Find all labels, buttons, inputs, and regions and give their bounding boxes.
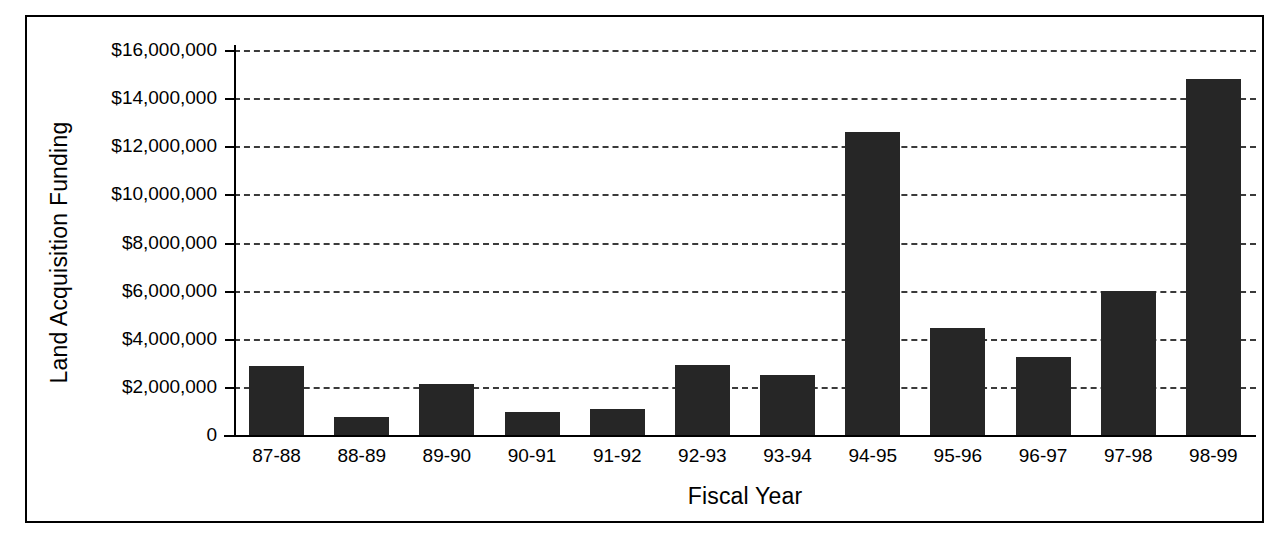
bar <box>249 366 304 435</box>
bars-layer <box>234 50 1256 435</box>
y-axis-tick-mark <box>225 435 236 437</box>
x-axis-tick-label: 92-93 <box>660 445 745 467</box>
x-axis-tick-label: 93-94 <box>745 445 830 467</box>
y-axis-tick-label-group: 0$2,000,000$4,000,000$6,000,000$8,000,00… <box>67 17 217 521</box>
x-axis-tick-label: 88-89 <box>319 445 404 467</box>
plot-area <box>234 50 1256 435</box>
bar <box>1186 79 1241 435</box>
bar <box>505 412 560 435</box>
bar <box>845 132 900 435</box>
bar <box>334 417 389 435</box>
bar <box>760 375 815 435</box>
y-axis-tick-mark <box>225 243 236 245</box>
bar <box>930 328 985 435</box>
x-axis-title: Fiscal Year <box>234 483 1256 510</box>
x-axis-tick-label: 91-92 <box>575 445 660 467</box>
y-axis-tick-label: $16,000,000 <box>67 39 217 61</box>
y-axis-tick-mark <box>225 291 236 293</box>
y-axis-tick-mark <box>225 194 236 196</box>
y-axis-tick-mark <box>225 146 236 148</box>
y-axis-tick-mark <box>225 387 236 389</box>
y-axis-tick-label: 0 <box>67 424 217 446</box>
y-axis-tick-mark <box>225 339 236 341</box>
x-axis-tick-label: 97-98 <box>1086 445 1171 467</box>
y-axis-tick-mark <box>225 50 236 52</box>
bar <box>675 365 730 435</box>
y-axis-tick-label: $2,000,000 <box>67 376 217 398</box>
x-axis-tick-label: 87-88 <box>234 445 319 467</box>
x-axis-tick-label: 98-99 <box>1171 445 1256 467</box>
bar <box>1101 291 1156 435</box>
y-axis-tick-label: $14,000,000 <box>67 87 217 109</box>
bar <box>1016 357 1071 435</box>
x-axis-tick-label: 95-96 <box>915 445 1000 467</box>
x-axis-tick-label-group: 87-8888-8989-9090-9191-9292-9393-9494-95… <box>234 445 1256 471</box>
x-axis-tick-label: 90-91 <box>490 445 575 467</box>
y-axis-tick-label: $6,000,000 <box>67 280 217 302</box>
x-axis-line <box>224 435 1256 437</box>
x-axis-tick-label: 89-90 <box>404 445 489 467</box>
y-axis-tick-mark <box>225 98 236 100</box>
x-axis-tick-label: 96-97 <box>1001 445 1086 467</box>
bar <box>590 409 645 435</box>
x-axis-tick-label: 94-95 <box>830 445 915 467</box>
y-axis-tick-label: $12,000,000 <box>67 135 217 157</box>
y-axis-tick-label: $4,000,000 <box>67 328 217 350</box>
y-axis-tick-label: $10,000,000 <box>67 183 217 205</box>
y-axis-tick-label: $8,000,000 <box>67 232 217 254</box>
bar <box>419 384 474 435</box>
chart-figure-frame: Land Acquisition Funding 0$2,000,000$4,0… <box>25 15 1264 523</box>
